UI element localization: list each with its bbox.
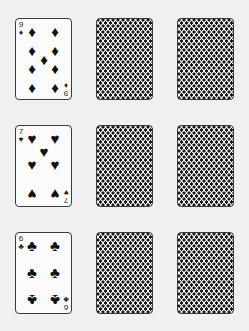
heart-icon: ♥ [62,188,70,196]
diamond-icon: ♦ [48,80,63,95]
club-icon: ♣ [62,295,70,303]
card-7-of-hearts[interactable]: 7♥ ♥ ♥ ♥ ♥ ♥ ♥ ♥ 7♥ [15,125,72,207]
club-icon: ♣ [25,238,40,253]
club-icon: ♣ [48,265,63,280]
diamond-icon: ♦ [48,24,63,39]
club-icon: ♣ [48,238,63,253]
club-icon: ♣ [48,293,63,308]
card-6-of-clubs[interactable]: 6♣ ♣ ♣ ♣ ♣ ♣ ♣ 6♣ [15,232,72,314]
card-face-down[interactable] [96,232,153,314]
diamond-icon: ♦ [48,61,63,76]
heart-icon: ♥ [25,187,40,202]
card-index-bottom: 9♦ [62,81,70,97]
diamond-icon: ♦ [25,24,40,39]
heart-icon: ♥ [48,187,63,202]
heart-icon: ♥ [48,157,63,172]
club-icon: ♣ [25,265,40,280]
heart-icon: ♥ [25,157,40,172]
diamond-icon: ♦ [25,61,40,76]
card-9-of-diamonds[interactable]: 9♦ ♦ ♦ ♦ ♦ ♦ ♦ ♦ ♦ ♦ 9♦ [15,18,72,100]
card-index-bottom: 6♣ [62,295,70,311]
card-index-bottom: 7♥ [62,188,70,204]
card-face-down[interactable] [177,232,234,314]
card-face-down[interactable] [96,125,153,207]
card-face-down[interactable] [177,125,234,207]
card-face-down[interactable] [96,18,153,100]
card-face-down[interactable] [177,18,234,100]
club-icon: ♣ [25,293,40,308]
diamond-icon: ♦ [25,80,40,95]
diamond-icon: ♦ [62,81,70,89]
